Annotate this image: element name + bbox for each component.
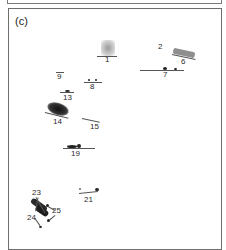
spot-8-dot — [88, 79, 90, 81]
spot-8-dot — [95, 79, 97, 81]
spot-13-dot — [65, 90, 70, 92]
spot-2-label: 2 — [158, 43, 162, 51]
spot-8-label: 8 — [90, 83, 94, 91]
spot-1-blob — [101, 40, 115, 56]
spot-15-label: 15 — [90, 123, 99, 131]
spot-19-label: 19 — [71, 150, 80, 158]
panel-label: (c) — [15, 15, 28, 27]
spot-7-dot — [174, 68, 177, 70]
previous-panel-frame — [7, 0, 222, 4]
spot-19-dot — [77, 144, 81, 148]
spot-24-label: 24 — [27, 214, 36, 222]
spot-9-label: 9 — [57, 73, 61, 81]
spot-7-line — [140, 70, 184, 71]
spot-25-label: 25 — [52, 207, 61, 215]
spot-1-label: 1 — [105, 56, 109, 64]
spot-21-dot — [79, 188, 81, 190]
spot-19-dot — [67, 145, 77, 148]
spot-14-label: 14 — [53, 118, 62, 126]
spot-21-label: 21 — [84, 196, 93, 204]
spot-6-label: 6 — [181, 58, 185, 66]
spot-13-label: 13 — [63, 94, 72, 102]
spot-21-dot — [95, 188, 99, 191]
spot-7-label: 7 — [163, 71, 167, 79]
spot-23-label: 23 — [32, 189, 41, 197]
